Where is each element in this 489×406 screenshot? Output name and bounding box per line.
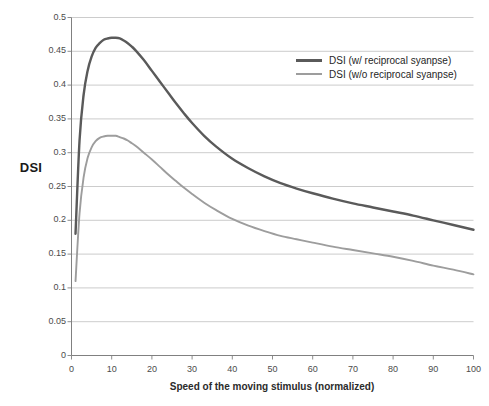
chart-figure: 00.050.10.150.20.250.30.350.40.450.5 010… — [0, 0, 489, 406]
x-tick-label: 90 — [413, 364, 453, 374]
y-tick-label: 0.5 — [18, 12, 66, 22]
y-tick-label: 0.1 — [18, 282, 66, 292]
legend-item-label: DSI (w/ reciprocal syanpse) — [329, 55, 451, 66]
y-tick-label: 0.05 — [18, 316, 66, 326]
y-tick-label: 0.45 — [18, 45, 66, 55]
y-tick-label: 0 — [18, 350, 66, 360]
x-tick-label: 100 — [454, 364, 489, 374]
x-tick-label: 30 — [172, 364, 212, 374]
x-tick-label: 50 — [253, 364, 293, 374]
y-tick-label: 0.4 — [18, 79, 66, 89]
x-tick-label: 10 — [92, 364, 132, 374]
legend-swatch-icon — [296, 73, 322, 75]
y-tick-label: 0.3 — [18, 147, 66, 157]
x-tick-label: 40 — [212, 364, 252, 374]
y-tick-label: 0.35 — [18, 113, 66, 123]
x-tick-label: 60 — [293, 364, 333, 374]
x-tick-label: 70 — [333, 364, 373, 374]
y-tick-label: 0.2 — [18, 214, 66, 224]
x-tick-label: 20 — [132, 364, 172, 374]
legend-item: DSI (w/ reciprocal syanpse) — [296, 53, 457, 67]
y-tick-label: 0.15 — [18, 248, 66, 258]
y-tick-marks — [68, 18, 72, 356]
legend-item-label: DSI (w/o reciprocal syanpse) — [329, 69, 457, 80]
legend-swatch-icon — [296, 59, 322, 62]
y-axis-title: DSI — [8, 160, 54, 175]
x-axis-title: Speed of the moving stimulus (normalized… — [71, 381, 473, 392]
x-tick-label: 0 — [52, 364, 92, 374]
legend-item: DSI (w/o reciprocal syanpse) — [296, 67, 457, 81]
y-tick-label: 0.25 — [18, 181, 66, 191]
x-tick-marks — [72, 356, 474, 360]
x-tick-label: 80 — [373, 364, 413, 374]
chart-legend: DSI (w/ reciprocal syanpse) DSI (w/o rec… — [293, 51, 460, 83]
